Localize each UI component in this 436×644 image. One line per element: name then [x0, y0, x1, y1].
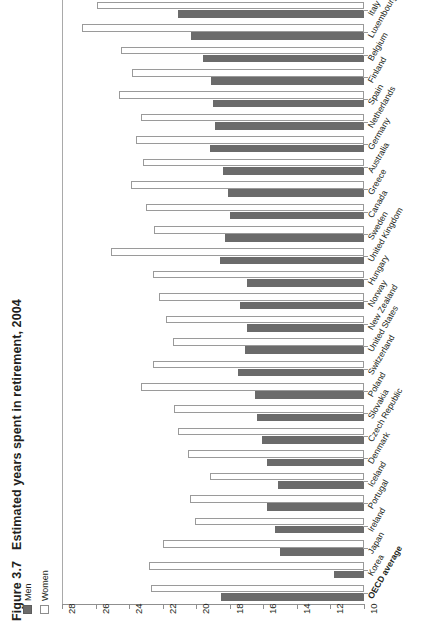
axis-tick [196, 604, 197, 609]
bar-women [143, 159, 364, 167]
axis-tick-label: 24 [133, 603, 144, 614]
bar-women [190, 495, 364, 503]
bar-women [111, 248, 364, 256]
bar-women [141, 383, 364, 391]
bar-men [262, 436, 364, 444]
axis-tick [297, 604, 298, 609]
axis-tick-label: 28 [66, 603, 77, 614]
bar-men [213, 100, 364, 108]
axis-tick [129, 604, 130, 609]
figure-title-text: Estimated years spent in retirement, 200… [10, 299, 24, 550]
bar-women [131, 181, 364, 189]
bar-men [238, 369, 364, 377]
bar-women [146, 204, 364, 212]
bar-men [278, 481, 364, 489]
bar-men [203, 55, 364, 63]
bar-men [267, 459, 364, 467]
bar-men [267, 503, 364, 511]
chart-legend: Men Women [19, 528, 65, 614]
plot-area [62, 0, 436, 604]
axis-tick-label: 16 [267, 603, 278, 614]
legend-label-women: Women [40, 570, 50, 601]
bar-women [174, 405, 364, 413]
axis-tick [263, 604, 264, 609]
bar-women [163, 540, 364, 548]
axis-tick-label: 26 [100, 603, 111, 614]
axis-tick-label: 20 [200, 603, 211, 614]
bar-men [225, 234, 364, 242]
value-axis-line [62, 0, 63, 604]
bar-men [230, 212, 364, 220]
bar-women [82, 24, 364, 32]
axis-tick [364, 604, 365, 609]
bar-men [240, 302, 364, 310]
bar-women [119, 91, 364, 99]
bar-men [334, 571, 364, 579]
bar-men [220, 257, 364, 265]
value-axis: 28262422201816141210 [62, 604, 367, 644]
axis-tick-label: 22 [167, 603, 178, 614]
axis-tick [62, 604, 63, 609]
bar-women [159, 293, 364, 301]
axis-tick-label: 10 [368, 603, 379, 614]
axis-tick-label: 12 [334, 603, 345, 614]
legend-item-men: Men [19, 528, 36, 614]
bar-women [178, 428, 364, 436]
bar-women [136, 136, 364, 144]
bar-men [228, 189, 364, 197]
bar-women [149, 562, 364, 570]
bar-men [178, 10, 364, 18]
bar-men [215, 122, 364, 130]
legend-label-men: Men [23, 583, 33, 601]
bar-women [153, 271, 364, 279]
legend-item-women: Women [36, 528, 53, 614]
bar-women [97, 2, 364, 10]
bar-women [173, 338, 364, 346]
bar-men [255, 391, 364, 399]
bar-men [245, 346, 364, 354]
bar-women [166, 316, 364, 324]
bar-women [153, 361, 364, 369]
bar-women [141, 114, 364, 122]
bar-men [247, 324, 364, 332]
bar-men [210, 145, 364, 153]
bar-women [121, 47, 364, 55]
bar-women [195, 518, 364, 526]
bar-men [280, 548, 364, 556]
bar-men [223, 167, 364, 175]
bar-men [275, 526, 364, 534]
bar-women [132, 69, 364, 77]
legend-swatch-women-icon [40, 605, 49, 614]
bar-women [154, 226, 364, 234]
bar-men [211, 77, 364, 85]
axis-tick [330, 604, 331, 609]
axis-tick [230, 604, 231, 609]
axis-tick [163, 604, 164, 609]
bar-women [151, 585, 364, 593]
axis-tick [96, 604, 97, 609]
bar-men [247, 279, 364, 287]
legend-swatch-men-icon [23, 605, 32, 614]
bar-men [221, 593, 364, 601]
bar-women [210, 473, 364, 481]
bar-women [188, 450, 364, 458]
bar-men [257, 414, 364, 422]
axis-tick-label: 14 [301, 603, 312, 614]
bar-men [191, 32, 364, 40]
axis-tick-label: 18 [234, 603, 245, 614]
